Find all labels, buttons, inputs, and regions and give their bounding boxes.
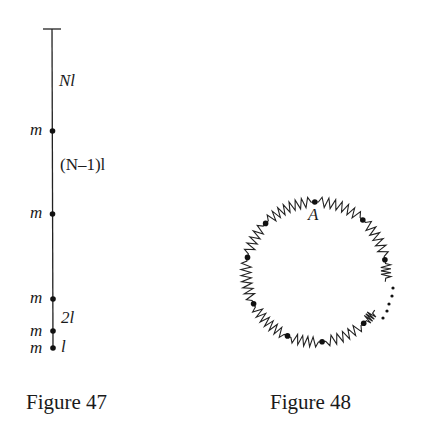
mass-label: m: [30, 339, 42, 356]
figure-48-caption: Figure 48: [270, 392, 351, 413]
mass-label: m: [30, 322, 42, 339]
length-label-N-minus-1-l: (N–1)l: [60, 156, 105, 173]
figure-47-diagram: [0, 0, 421, 425]
figure-47-caption: Figure 47: [26, 392, 107, 413]
length-label-2l: 2l: [61, 309, 74, 326]
length-label-Nl: Nl: [59, 72, 75, 89]
mass-label: m: [30, 204, 42, 221]
ellipsis-dots: [381, 286, 394, 319]
mass-label: m: [30, 289, 42, 306]
mass-label: m: [30, 121, 42, 138]
point-label-A: A: [308, 206, 318, 223]
length-label-l: l: [61, 338, 66, 355]
